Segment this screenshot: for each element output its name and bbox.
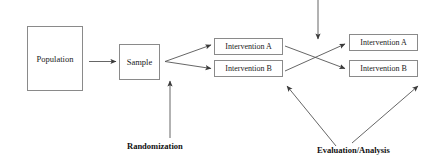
edge-sample-to-mid-b: [165, 62, 211, 69]
caption-evaluation-analysis: Evaluation/Analysis: [317, 145, 390, 155]
edge-sample-to-mid-a: [165, 45, 211, 62]
node-right-intervention-a[interactable]: Intervention A: [349, 34, 418, 51]
edge-evaluation-to-right-intervention: [352, 86, 418, 143]
edge-evaluation-to-mid-intervention: [287, 86, 336, 146]
diagram-canvas: Population Sample Intervention A Interve…: [0, 0, 440, 167]
node-mid-intervention-a[interactable]: Intervention A: [214, 38, 283, 55]
caption-randomization: Randomization: [127, 141, 183, 151]
node-population-label: Population: [37, 54, 74, 64]
node-sample[interactable]: Sample: [119, 44, 160, 80]
node-population[interactable]: Population: [27, 26, 83, 91]
edge-crossover-b-to-right-a: [285, 44, 345, 71]
node-mid-intervention-b[interactable]: Intervention B: [214, 60, 283, 77]
edge-crossover-a-to-right-b: [285, 46, 345, 69]
node-right-intervention-a-label: Intervention A: [360, 38, 406, 47]
node-right-intervention-b[interactable]: Intervention B: [349, 60, 418, 77]
node-mid-intervention-a-label: Intervention A: [225, 42, 271, 51]
node-right-intervention-b-label: Intervention B: [360, 64, 406, 73]
node-mid-intervention-b-label: Intervention B: [225, 64, 271, 73]
node-sample-label: Sample: [127, 57, 153, 67]
